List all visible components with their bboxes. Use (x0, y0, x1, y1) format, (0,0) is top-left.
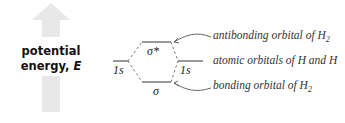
antibonding-pointer-arrow-icon (174, 34, 211, 42)
bonding-annotation: bonding orbital of H2 (213, 79, 312, 94)
energy-label-line1: potential (13, 44, 89, 59)
energy-symbol: E (73, 59, 81, 73)
left-1s-label: 1s (113, 63, 124, 78)
right-1s-label: 1s (180, 63, 191, 78)
antibonding-level-label: σ* (147, 44, 159, 59)
atomic-annotation: atomic orbitals of H and H (213, 54, 337, 66)
bonding-level-label: σ (153, 84, 159, 99)
energy-axis-label: potential energy, E (13, 44, 89, 74)
antibonding-annotation: antibonding orbital of H2 (213, 29, 330, 44)
energy-label-line2: energy, (21, 59, 70, 73)
bonding-pointer-arrow-icon (174, 83, 211, 90)
